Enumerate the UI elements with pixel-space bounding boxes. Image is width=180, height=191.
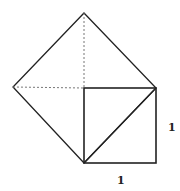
unit-square-diagonal: [84, 88, 156, 163]
dashed-horizontal-guide: [13, 87, 84, 88]
side-label-bottom: 1: [117, 174, 125, 187]
side-label-right: 1: [168, 121, 176, 134]
diagram-canvas: 1 1: [0, 0, 180, 191]
